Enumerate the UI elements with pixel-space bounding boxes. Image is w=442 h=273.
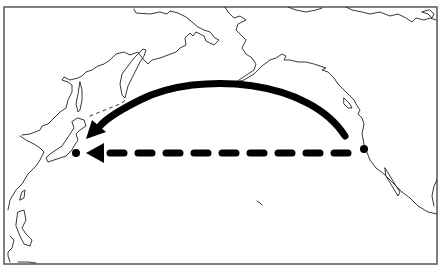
map-canvas (0, 0, 442, 273)
destination-point-marker (72, 149, 80, 157)
pacific-route-map (0, 0, 442, 273)
origin-point-marker (360, 145, 368, 153)
